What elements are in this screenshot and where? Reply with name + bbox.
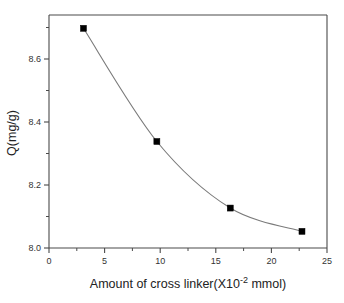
- y-tick-label-8-0: 8.0: [28, 243, 41, 253]
- x-tick-label-5: 5: [102, 256, 107, 266]
- series-line-path: [83, 28, 302, 231]
- data-point-marker: [227, 205, 233, 211]
- x-tick-label-20: 20: [266, 256, 276, 266]
- data-point-marker: [154, 138, 160, 144]
- data-point-marker: [80, 25, 86, 31]
- x-axis-title-tail: mmol): [248, 277, 286, 291]
- y-tick-label-8-6: 8.6: [28, 54, 41, 64]
- x-tick-label-0: 0: [46, 256, 51, 266]
- plot-frame: [49, 15, 327, 248]
- y-axis-title-text: Q(mg/g): [5, 110, 19, 156]
- x-axis-title-text: Amount of cross linker(X10-2 mmol): [90, 275, 286, 291]
- x-axis-title: Amount of cross linker(X10-2 mmol): [90, 275, 286, 291]
- data-series-curve: [83, 28, 302, 231]
- data-point-marker: [299, 228, 305, 234]
- chart-canvas: 0 5 10 15 20 25 8.0 8.2 8.4 8.6 Q(mg/g) …: [0, 0, 344, 303]
- x-tick-label-10: 10: [155, 256, 165, 266]
- y-tick-label-8-4: 8.4: [28, 117, 41, 127]
- y-axis-tick-labels: 8.0 8.2 8.4 8.6: [28, 54, 41, 253]
- x-tick-label-25: 25: [322, 256, 332, 266]
- data-series-markers: [80, 25, 305, 234]
- y-axis-title: Q(mg/g): [5, 110, 19, 156]
- y-tick-label-8-2: 8.2: [28, 180, 41, 190]
- x-axis-title-main: Amount of cross linker(X10: [90, 277, 240, 291]
- x-tick-label-15: 15: [211, 256, 221, 266]
- x-axis-tick-labels: 0 5 10 15 20 25: [46, 256, 332, 266]
- x-axis-title-superscript: -2: [240, 275, 248, 285]
- chart-figure: 0 5 10 15 20 25 8.0 8.2 8.4 8.6 Q(mg/g) …: [0, 0, 344, 303]
